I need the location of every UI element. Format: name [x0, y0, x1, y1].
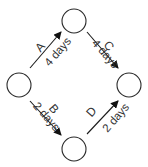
node-start — [7, 73, 31, 97]
node-bottom — [62, 137, 86, 161]
node-top — [62, 9, 86, 33]
node-end — [117, 73, 141, 97]
edge-a-duration: 4 days — [42, 35, 73, 69]
network-diagram: A 4 days C 4 days B 2 days D 2 days — [0, 0, 148, 167]
edge-d-label: D — [83, 104, 99, 120]
edge-d-duration: 2 days — [100, 101, 131, 135]
edge-a-label: A — [32, 39, 48, 54]
